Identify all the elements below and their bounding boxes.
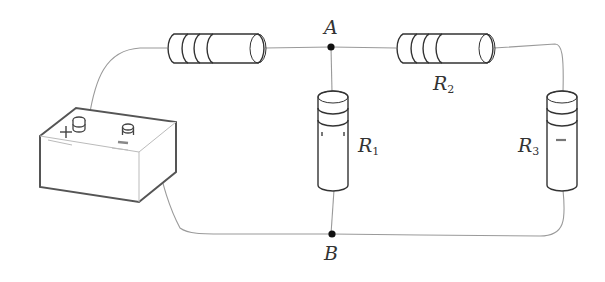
node-b-dot [328, 230, 335, 237]
node-a-dot [327, 43, 334, 50]
wire-R1-to-B [331, 190, 334, 234]
wire-A-to-R2 [331, 47, 396, 48]
circuit-diagram: A B R1 R2 R3 [0, 0, 605, 282]
r2-label-sub: 2 [447, 83, 454, 96]
r1-label-sub: 1 [372, 145, 379, 158]
node-a-label: A [324, 18, 338, 37]
node-b-label: B [324, 244, 338, 263]
battery-icon [40, 108, 176, 202]
resistor-r2-icon [397, 34, 495, 63]
resistor-r1-icon [318, 91, 348, 191]
wire-R2-to-R3 [494, 44, 563, 92]
series-resistor-icon [168, 34, 266, 63]
wire-R3-to-B [331, 190, 564, 236]
r1-label-main: R [358, 134, 372, 156]
circuit-svg [0, 0, 605, 282]
resistor-r3-icon [547, 91, 577, 191]
r1-label: R1 [358, 136, 379, 157]
r2-label-main: R [433, 72, 447, 94]
wire-A-to-R1 [331, 47, 332, 92]
wire-series-to-A [265, 47, 331, 48]
r3-label-main: R [518, 134, 532, 156]
wire-battery-plus [89, 48, 167, 118]
r3-label: R3 [518, 136, 539, 157]
r3-label-sub: 3 [532, 145, 539, 158]
r2-label: R2 [433, 74, 454, 95]
